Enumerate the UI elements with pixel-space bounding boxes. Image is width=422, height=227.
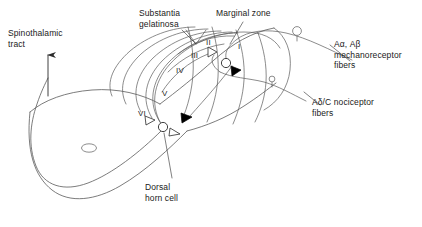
cord-ventral-surface: [187, 83, 276, 131]
lamina-numeral-v: V: [162, 89, 168, 98]
synapse-open-lower-right: [169, 128, 180, 136]
nociceptor-fiber: [220, 72, 306, 101]
horn-lateral-cap: [264, 28, 290, 110]
spinothalamic-tract-axon: [31, 78, 161, 187]
drg-cell-mechanoreceptor: [293, 27, 302, 36]
synapse-open-upper: [208, 47, 217, 57]
label-substantia-gelatinosa: Substantia gelatinosa: [139, 8, 180, 29]
label-marginal-zone: Marginal zone: [216, 8, 271, 19]
lamina-numeral-ii: II: [206, 38, 211, 47]
lamina-numeral-i: I: [238, 42, 240, 51]
figure-canvas: Spinothalamic tract Substantia gelatinos…: [0, 0, 422, 227]
synapse-filled-lower: [181, 113, 192, 123]
interneuron-soma: [221, 58, 230, 67]
lamina-inner-arc-3: [162, 54, 208, 92]
label-spinothalamic-tract: Spinothalamic tract: [8, 28, 63, 49]
synapse-filled-upper: [231, 66, 241, 76]
dorsal-horn-cell-soma: [158, 122, 167, 131]
label-dorsal-horn-cell: Dorsal horn cell: [145, 182, 178, 203]
label-nociceptor-fibers: Aδ/C nociceptor fibers: [312, 97, 374, 118]
central-canal: [82, 144, 97, 152]
synapse-open-lower-left: [145, 116, 155, 125]
lamina-numeral-vi: VI: [138, 109, 146, 118]
lamina-boundary-2: [153, 33, 238, 122]
label-mechanoreceptor-fibers: Aα, Aβ mechanoreceptor fibers: [334, 39, 402, 71]
mechanoreceptor-collateral: [190, 66, 232, 116]
leader-dorsal-horn-cell: [164, 133, 172, 178]
drg-cell-nociceptor: [269, 76, 275, 82]
lamina-numeral-iv: IV: [176, 66, 184, 75]
lamina-numeral-iii: III: [191, 51, 198, 60]
lamina-rib-d: [255, 33, 266, 122]
lamina-boundary-1: [155, 32, 280, 127]
nociceptor-collateral: [212, 55, 220, 72]
